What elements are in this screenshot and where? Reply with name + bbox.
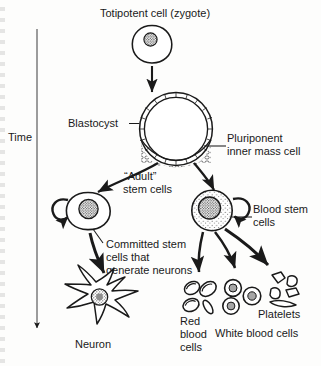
blastocyst-label: Blastocyst xyxy=(68,117,118,129)
red-blood-cells-label-line3: cells xyxy=(180,341,203,353)
platelet xyxy=(270,301,296,307)
red-blood-cell xyxy=(197,279,219,300)
white-blood-cells xyxy=(223,280,261,315)
blood-stem-label-line1: Blood stem xyxy=(253,203,308,215)
blood-stem-self-renewal-loop xyxy=(233,198,249,218)
figure-title: Totipotent cell (zygote) xyxy=(100,7,210,19)
zygote-nucleus xyxy=(144,33,157,46)
blastocyst-to-blood-stem-arrow xyxy=(194,163,214,190)
stem-cell-differentiation-figure: Time Totipotent cell (zygote) xyxy=(0,0,321,366)
time-axis-label: Time xyxy=(8,131,32,143)
red-blood-cell xyxy=(182,279,202,297)
red-blood-cell xyxy=(181,296,201,314)
platelets xyxy=(270,272,299,307)
time-axis: Time xyxy=(8,29,37,328)
blastocyst-outer-wall xyxy=(140,93,213,166)
adult-stem-cells-label-line2: stem cells xyxy=(123,183,172,195)
zygote-cell xyxy=(132,26,172,64)
platelet xyxy=(270,288,280,299)
neural-stem-to-neuron-arrow xyxy=(90,233,104,273)
white-blood-cells-label: White blood cells xyxy=(215,327,299,339)
pluripotent-label-line2: inner mass cell xyxy=(227,145,300,157)
white-blood-cell xyxy=(243,287,261,305)
platelet xyxy=(286,288,299,297)
committed-stem-label-line3: generate neurons xyxy=(106,264,193,276)
blood-stem-to-rbc-arrow xyxy=(199,232,203,272)
platelets-label: Platelets xyxy=(258,308,301,320)
red-blood-cells-label-line2: blood xyxy=(180,328,207,340)
red-blood-cells-label-line1: Red xyxy=(180,315,200,327)
blood-stem-cell xyxy=(192,190,232,230)
blood-stem-label-line2: cells xyxy=(253,216,276,228)
blood-stem-cell-nucleus xyxy=(199,197,221,219)
blood-stem-to-wbc-arrow xyxy=(215,232,235,268)
red-blood-cells xyxy=(181,279,219,316)
platelet xyxy=(272,272,285,283)
white-blood-cell xyxy=(225,280,242,297)
neuron-label: Neuron xyxy=(75,338,111,350)
committed-stem-leader-line xyxy=(93,229,103,243)
neural-stem-cell xyxy=(66,193,110,230)
committed-stem-label-line2: cells that xyxy=(106,251,149,263)
red-blood-cell-edge-on xyxy=(201,299,215,315)
white-blood-cell xyxy=(223,298,239,314)
platelet xyxy=(287,276,297,287)
blastocyst xyxy=(140,93,213,168)
neural-stem-cell-nucleus xyxy=(79,199,98,218)
neuron-nucleolus xyxy=(96,294,103,301)
diagram-canvas: Time Totipotent cell (zygote) xyxy=(0,0,321,366)
adult-stem-cells-label-line1: “Adult” xyxy=(124,170,157,182)
committed-stem-label-line1: Committed stem xyxy=(106,238,186,250)
pluripotent-label-line1: Pluriponent xyxy=(227,132,283,144)
